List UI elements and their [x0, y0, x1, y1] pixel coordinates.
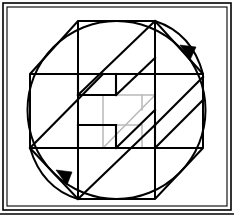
diagram-canvas	[0, 0, 234, 221]
edge-right-diagonal	[155, 100, 203, 148]
edge-right-upper-diagonal	[155, 77, 203, 125]
edge-mid-left-diagonal	[30, 74, 103, 148]
hidden-edges-group	[103, 95, 155, 148]
geometry-figure	[0, 0, 234, 221]
inscribed-octagon	[30, 21, 203, 199]
grid-lines-group	[30, 21, 203, 199]
inner-border-rect	[7, 7, 227, 206]
rotation-arrows-group	[30, 21, 203, 199]
hidden-diagonal-main-line	[103, 95, 155, 148]
solid-visible-edges-group	[30, 21, 203, 199]
edge-mid-diagonal-a	[116, 58, 155, 95]
